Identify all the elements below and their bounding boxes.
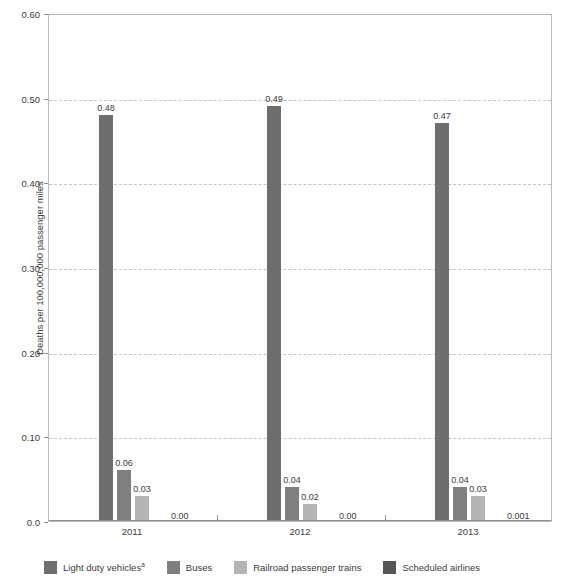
gridline — [49, 354, 551, 355]
gridline — [49, 438, 551, 439]
bar: 0.47 — [435, 123, 449, 521]
legend-item[interactable]: Light duty vehiclesa — [44, 561, 145, 574]
bar-value-label: 0.04 — [283, 475, 301, 485]
legend-item-label: Railroad passenger trains — [253, 562, 361, 573]
y-axis-tick-label: 0.10 — [22, 432, 41, 443]
plot-area: 0.480.060.030.000.490.040.020.000.470.04… — [48, 14, 552, 522]
bar-value-label: 0.47 — [433, 111, 451, 121]
x-axis-labels: 201120122013 — [48, 526, 552, 542]
bar: 0.03 — [135, 496, 149, 521]
x-axis-tick-label: 2011 — [122, 526, 142, 537]
legend-item-label: Scheduled airlines — [402, 562, 480, 573]
legend-color-swatch — [383, 561, 396, 574]
y-axis-tick-label: 0.40 — [22, 178, 41, 189]
y-axis-tick-label: 0.30 — [22, 263, 41, 274]
legend-item-label: Buses — [186, 562, 212, 573]
bar-value-label: 0.03 — [133, 484, 151, 494]
gridline — [49, 100, 551, 101]
bar-value-label: 0.48 — [97, 103, 115, 113]
legend-footnote-marker: a — [141, 561, 145, 568]
y-axis-tick-label: 0.60 — [22, 9, 41, 20]
bar: 0.49 — [267, 106, 281, 521]
bar: 0.48 — [99, 115, 113, 521]
y-axis-tick-label: 0.50 — [22, 93, 41, 104]
bar: 0.06 — [117, 470, 131, 521]
gridline — [49, 184, 551, 185]
y-axis-tick-mark — [44, 522, 48, 523]
bar-value-label: 0.04 — [451, 475, 469, 485]
legend-color-swatch — [44, 561, 57, 574]
legend-color-swatch — [234, 561, 247, 574]
bar-chart: Deaths per 100,000,000 passenger miles 0… — [0, 0, 579, 587]
bar: 0.04 — [453, 487, 467, 521]
legend-color-swatch — [167, 561, 180, 574]
legend-item[interactable]: Buses — [167, 561, 212, 574]
bar-value-label: 0.06 — [115, 458, 133, 468]
legend-item[interactable]: Railroad passenger trains — [234, 561, 361, 574]
x-axis-tick-label: 2012 — [289, 526, 310, 537]
x-axis-tick-label: 2013 — [457, 526, 478, 537]
bar: 0.04 — [285, 487, 299, 521]
y-axis-ticks: 0.00.100.200.300.400.500.60 — [0, 14, 48, 522]
bar-value-label: 0.03 — [469, 484, 487, 494]
axis-baseline — [49, 520, 551, 521]
gridline — [49, 269, 551, 270]
y-axis-tick-label: 0.20 — [22, 347, 41, 358]
legend-item[interactable]: Scheduled airlines — [383, 561, 480, 574]
bar-value-label: 0.02 — [301, 492, 319, 502]
bar: 0.02 — [303, 504, 317, 521]
y-axis-tick-label: 0.0 — [27, 517, 40, 528]
bar: 0.03 — [471, 496, 485, 521]
chart-legend: Light duty vehiclesaBusesRailroad passen… — [44, 561, 502, 574]
legend-item-label: Light duty vehiclesa — [63, 561, 145, 573]
bar-value-label: 0.49 — [265, 94, 283, 104]
